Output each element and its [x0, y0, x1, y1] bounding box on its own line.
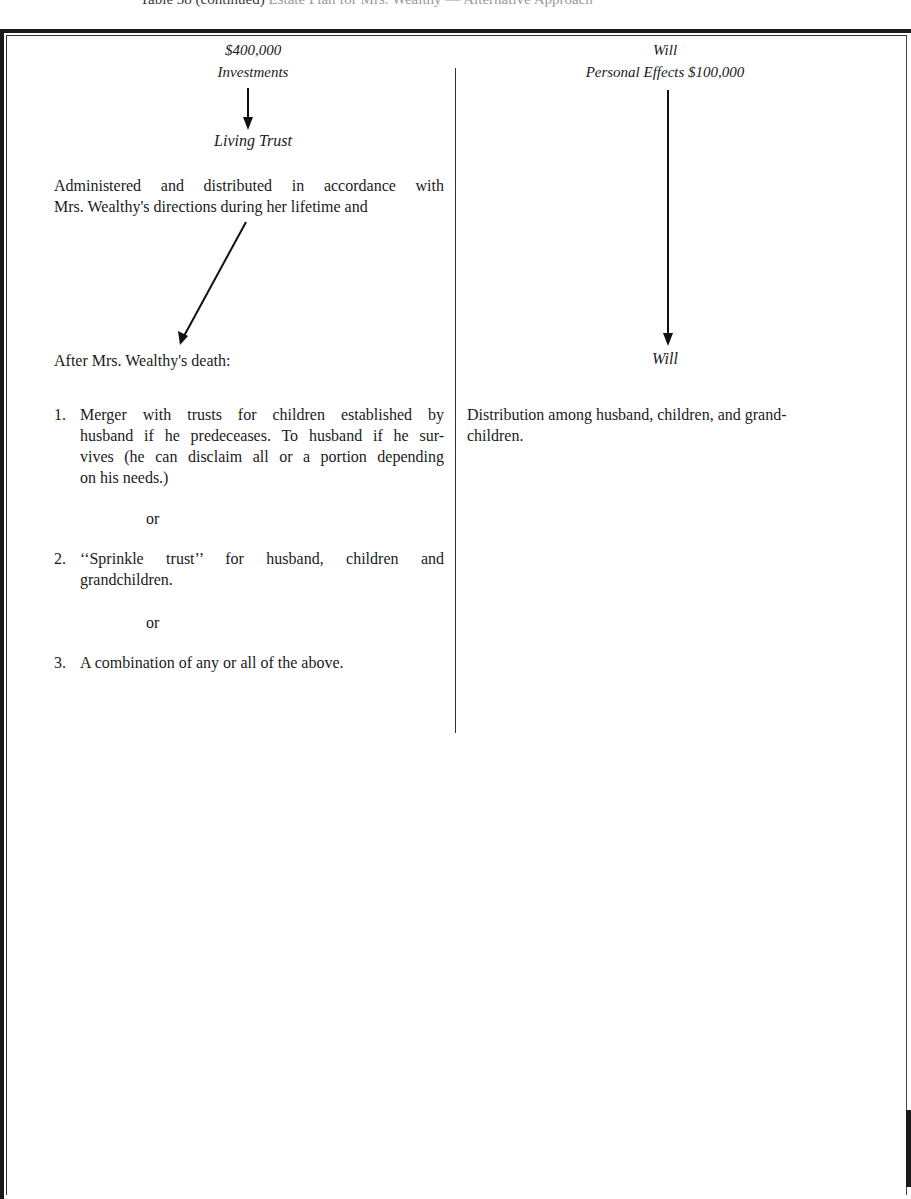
arrow-down-icon — [243, 88, 253, 130]
arrow-down-icon — [663, 90, 673, 346]
arrow-diagonal-icon — [178, 222, 246, 345]
